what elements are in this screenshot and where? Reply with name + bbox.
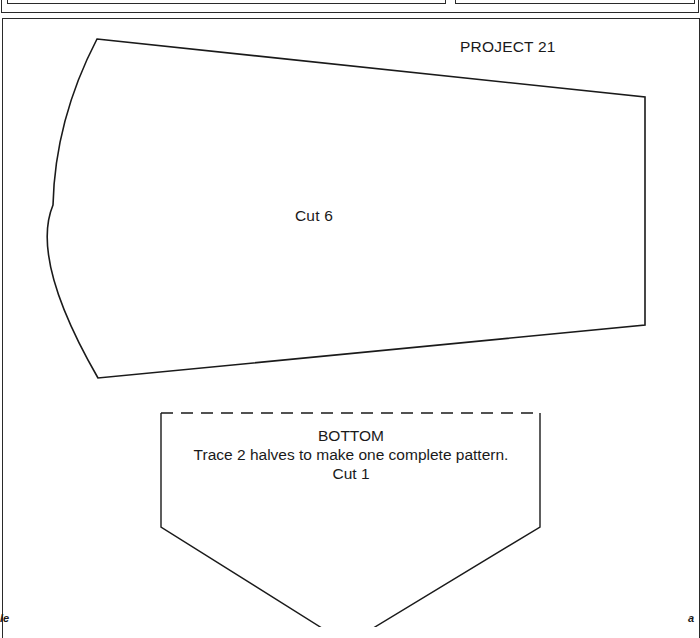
project-title: PROJECT 21 — [460, 38, 556, 56]
bottom-cut-instruction: Cut 1 — [161, 464, 541, 483]
side-panel-cut-instruction: Cut 6 — [0, 207, 628, 225]
bottom-label: BOTTOM — [161, 426, 541, 445]
corner-mark-right: a — [688, 612, 694, 624]
corner-mark-left: le — [0, 612, 9, 624]
bottom-piece-labels: BOTTOM Trace 2 halves to make one comple… — [161, 426, 541, 483]
bottom-trace-instruction: Trace 2 halves to make one complete patt… — [161, 445, 541, 464]
